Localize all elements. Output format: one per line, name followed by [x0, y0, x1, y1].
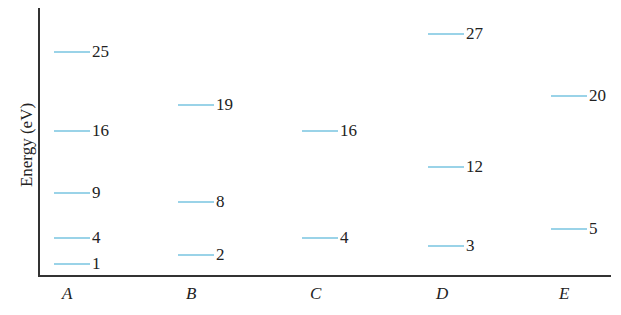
energy-level-line [178, 254, 214, 256]
energy-level-line [178, 104, 214, 106]
energy-level-value: 16 [92, 121, 109, 141]
energy-level-value: 1 [92, 254, 101, 274]
energy-level-line [302, 130, 338, 132]
energy-level-line [54, 237, 90, 239]
energy-level-line [551, 228, 587, 230]
energy-level-value: 25 [92, 42, 109, 62]
energy-level-value: 4 [340, 228, 349, 248]
energy-level-line [302, 237, 338, 239]
energy-level-line [54, 263, 90, 265]
energy-level-line [178, 201, 214, 203]
energy-level-value: 12 [466, 157, 483, 177]
energy-level-line [428, 33, 464, 35]
energy-level-value: 4 [92, 228, 101, 248]
energy-level-value: 20 [589, 86, 606, 106]
energy-level-value: 3 [466, 236, 475, 256]
category-label-d: D [436, 284, 448, 304]
energy-level-line [54, 130, 90, 132]
energy-level-value: 8 [216, 192, 225, 212]
energy-level-value: 27 [466, 24, 483, 44]
energy-level-value: 19 [216, 95, 233, 115]
energy-level-line [54, 192, 90, 194]
y-axis-label: Energy (eV) [17, 90, 37, 200]
energy-level-value: 2 [216, 245, 225, 265]
energy-level-line [428, 166, 464, 168]
category-label-c: C [310, 284, 321, 304]
energy-level-value: 16 [340, 121, 357, 141]
energy-level-line [551, 95, 587, 97]
x-axis [38, 275, 611, 277]
category-label-a: A [62, 284, 72, 304]
energy-level-value: 5 [589, 219, 598, 239]
energy-level-line [428, 245, 464, 247]
category-label-b: B [186, 284, 196, 304]
category-label-e: E [559, 284, 569, 304]
energy-level-value: 9 [92, 183, 101, 203]
y-axis [38, 8, 40, 277]
energy-level-line [54, 51, 90, 53]
